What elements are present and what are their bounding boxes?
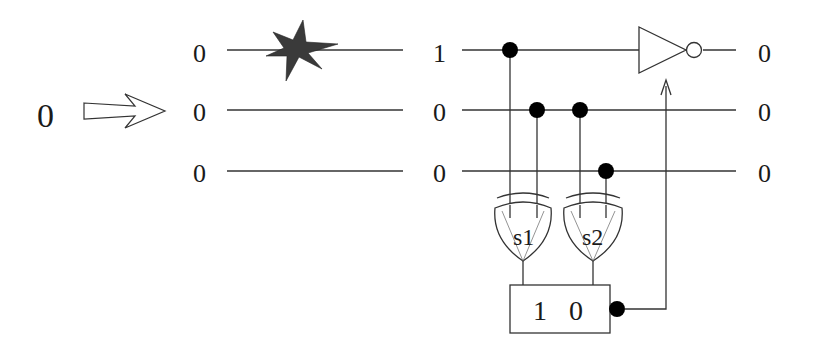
output-bit-1: 0 bbox=[758, 39, 771, 68]
error-correction-circuit: 0 0 0 0 1 0 0 s1 s2 bbox=[0, 0, 813, 345]
not-gate-bubble bbox=[687, 43, 702, 58]
input-bit: 0 bbox=[37, 97, 54, 134]
control-dot-1 bbox=[502, 42, 518, 58]
output-bit-3: 0 bbox=[758, 159, 771, 188]
received-bit-3: 0 bbox=[433, 159, 446, 188]
encode-arrow-icon bbox=[84, 94, 165, 128]
register-output-dot bbox=[609, 301, 625, 317]
xor-gate-s2-label: s2 bbox=[582, 224, 603, 250]
received-bit-2: 0 bbox=[433, 98, 446, 127]
control-dot-4 bbox=[598, 163, 614, 179]
feedback-wire bbox=[625, 86, 666, 309]
xor-gate-s2: s2 bbox=[564, 193, 623, 261]
control-dot-2 bbox=[529, 102, 545, 118]
encoded-bit-2: 0 bbox=[193, 98, 206, 127]
encoded-bit-3: 0 bbox=[193, 159, 206, 188]
syndrome-register bbox=[510, 285, 610, 333]
syndrome-bit-2: 0 bbox=[569, 295, 583, 326]
not-gate bbox=[639, 27, 686, 73]
syndrome-bit-1: 1 bbox=[533, 295, 547, 326]
encoded-bit-1: 0 bbox=[193, 39, 206, 68]
xor-gate-s1-label: s1 bbox=[513, 224, 534, 250]
xor-gate-s1: s1 bbox=[495, 193, 552, 261]
output-bit-2: 0 bbox=[758, 98, 771, 127]
received-bit-1: 1 bbox=[433, 39, 446, 68]
control-dot-3 bbox=[572, 102, 588, 118]
